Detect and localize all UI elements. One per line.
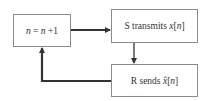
send-prefix: R sends [131, 76, 163, 86]
node-update-counter: n = n +1 [13, 14, 71, 47]
node-s-transmits: S transmits x[n] [111, 9, 198, 43]
bracket-close: ] [181, 21, 184, 31]
plus-one: +1 [46, 26, 58, 36]
arrow-send-to-update [42, 48, 111, 81]
transmit-prefix: S transmits [124, 21, 169, 31]
equals-sign: = [31, 26, 41, 36]
node-r-sends: R sends x̂[n] [111, 64, 198, 97]
bracket-close: ] [175, 76, 178, 86]
